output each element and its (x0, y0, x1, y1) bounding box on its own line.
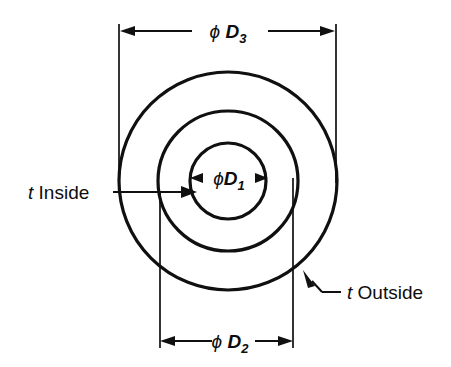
arrow-head-t-outside (303, 270, 315, 288)
variable-d1: D (224, 168, 238, 189)
dimension-label-d2: ϕ D2 (212, 331, 250, 356)
callout-label-t-outside: t Outside (347, 282, 423, 303)
leader-line-t-outside-angled (312, 281, 322, 292)
diagram-canvas: ϕ D3 ϕ D2 ϕD1 t Inside t Outside (0, 0, 451, 367)
phi-symbol-d3: ϕ (210, 21, 221, 42)
subscript-d1: 1 (238, 178, 245, 193)
subscript-d2: 2 (240, 341, 249, 356)
subscript-d3: 3 (239, 31, 247, 46)
phi-symbol-d1: ϕ (213, 168, 224, 189)
arrow-head-d3-left (120, 26, 135, 36)
callout-label-t-inside: t Inside (28, 182, 89, 203)
arrow-head-d2-right (278, 336, 293, 346)
variable-d2: D (227, 331, 241, 352)
technical-diagram-figure: ϕ D3 ϕ D2 ϕD1 t Inside t Outside (0, 0, 451, 367)
phi-symbol-d2: ϕ (212, 331, 223, 352)
t-inside-plain: Inside (39, 182, 90, 203)
dimension-label-d1: ϕD1 (213, 168, 245, 193)
dimension-label-d3: ϕ D3 (210, 21, 248, 46)
t-outside-plain: Outside (358, 282, 423, 303)
arrow-head-d3-right (320, 26, 335, 36)
variable-d3: D (225, 21, 239, 42)
arrow-head-d2-left (160, 336, 175, 346)
